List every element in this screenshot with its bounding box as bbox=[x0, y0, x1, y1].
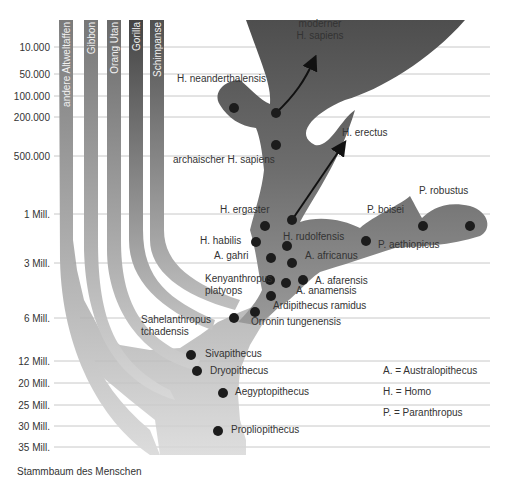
time-tick-label: 35 Mill. bbox=[18, 442, 50, 453]
time-tick-label: 20 Mill. bbox=[18, 378, 50, 389]
species-label: H. ergaster bbox=[220, 204, 270, 215]
fossil-dot bbox=[465, 221, 475, 231]
species-label: H. habilis bbox=[200, 235, 241, 246]
time-axis: 10.00050.000100.000200.000500.0001 Mill.… bbox=[14, 42, 51, 453]
fossil-dot bbox=[287, 258, 297, 268]
lineage-label: Orang Utan bbox=[109, 22, 120, 74]
time-tick-label: 100.000 bbox=[14, 91, 51, 102]
fossil-dot bbox=[287, 215, 297, 225]
species-label: Ardipithecus ramidus bbox=[273, 300, 366, 311]
species-label: P. boisei bbox=[367, 204, 404, 215]
time-tick-label: 12 Mill. bbox=[18, 356, 50, 367]
fossil-dot bbox=[271, 108, 281, 118]
time-tick-label: 500.000 bbox=[14, 151, 51, 162]
fossil-dot bbox=[266, 253, 276, 263]
lineage-label: Gorilla bbox=[131, 22, 142, 51]
time-tick-label: 3 Mill. bbox=[24, 258, 50, 269]
abbreviation-legend: A. = AustralopithecusH. = HomoP. = Paran… bbox=[383, 365, 477, 418]
species-label: Propliopithecus bbox=[231, 424, 299, 435]
species-label: platyops bbox=[205, 285, 242, 296]
fossil-dot bbox=[361, 236, 371, 246]
fossil-dot bbox=[271, 140, 281, 150]
legend-entry: P. = Paranthropus bbox=[383, 407, 463, 418]
fossil-dot bbox=[251, 237, 261, 247]
lineage-label: andere Altweltaffen bbox=[61, 22, 72, 107]
species-label: P. aethiopicus bbox=[378, 239, 440, 250]
fossil-dot bbox=[418, 221, 428, 231]
species-label: H. neanderthalensis bbox=[177, 73, 266, 84]
fossil-dot bbox=[186, 350, 196, 360]
legend-entry: H. = Homo bbox=[383, 386, 432, 397]
species-label: Sahelanthropus bbox=[141, 314, 211, 325]
species-label: Aegyptopithecus bbox=[235, 386, 309, 397]
species-label: A. anamensis bbox=[296, 285, 357, 296]
species-label: H. erectus bbox=[342, 127, 388, 138]
fossil-dot bbox=[298, 275, 308, 285]
species-label: Dryopithecus bbox=[210, 365, 268, 376]
species-label: Kenyanthropus bbox=[205, 273, 272, 284]
fossil-dot bbox=[218, 388, 228, 398]
fossil-dot bbox=[192, 366, 202, 376]
lineage-band-chimpanzee bbox=[150, 20, 240, 310]
lineage-label: Gibbon bbox=[86, 22, 97, 54]
species-label: H. sapiens bbox=[296, 30, 343, 41]
time-tick-label: 6 Mill. bbox=[24, 313, 50, 324]
species-label: tchadensis bbox=[141, 326, 189, 337]
time-tick-label: 30 Mill. bbox=[18, 421, 50, 432]
fossil-dot bbox=[282, 241, 292, 251]
species-label: A. gahri bbox=[214, 250, 248, 261]
legend-entry: A. = Australopithecus bbox=[383, 365, 477, 376]
footer-caption: Stammbaum des Menschen bbox=[17, 466, 142, 477]
time-tick-label: 50.000 bbox=[19, 69, 50, 80]
time-tick-label: 200.000 bbox=[14, 112, 51, 123]
species-label: H. rudolfensis bbox=[283, 231, 344, 242]
species-label: Orronin tungenensis bbox=[251, 316, 341, 327]
lineage-label: Schimpanse bbox=[152, 22, 163, 77]
fossil-dot bbox=[213, 426, 223, 436]
fossil-dot bbox=[260, 221, 270, 231]
time-tick-label: 10.000 bbox=[19, 42, 50, 53]
fossil-dot bbox=[229, 313, 239, 323]
species-label: archaischer H. sapiens bbox=[173, 154, 275, 165]
species-label: Sivapithecus bbox=[205, 348, 262, 359]
species-label: moderner bbox=[299, 18, 342, 29]
species-label: A. africanus bbox=[305, 250, 358, 261]
fossil-dot bbox=[281, 278, 291, 288]
species-label: P. robustus bbox=[419, 185, 468, 196]
time-tick-label: 25 Mill. bbox=[18, 400, 50, 411]
lineage-band-gorilla bbox=[129, 20, 215, 330]
fossil-dot bbox=[229, 103, 239, 113]
time-tick-label: 1 Mill. bbox=[24, 209, 50, 220]
